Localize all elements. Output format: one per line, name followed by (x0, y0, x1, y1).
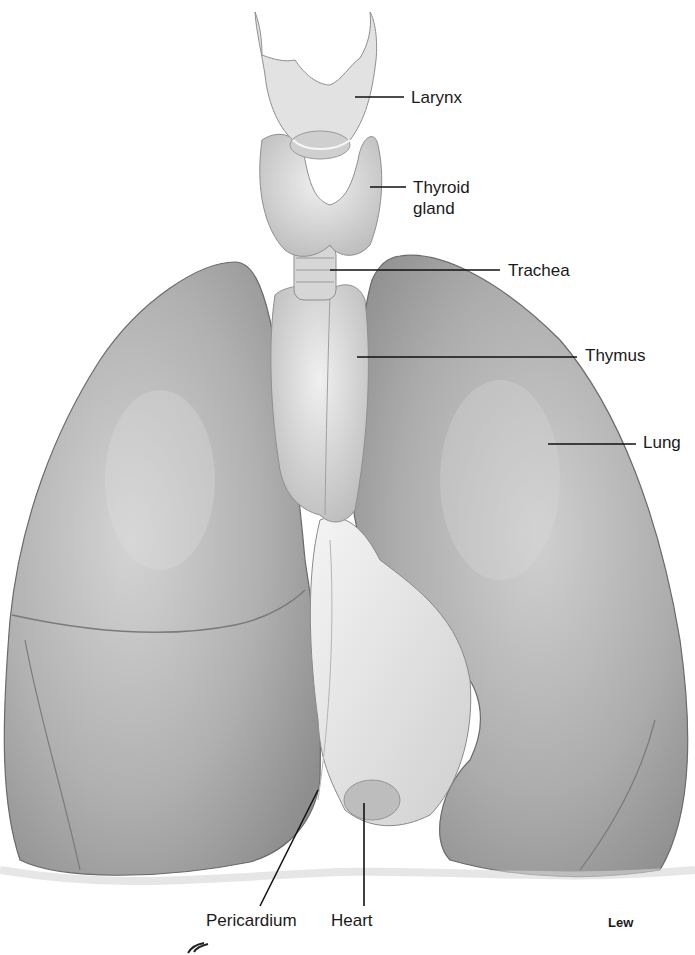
thymus (271, 285, 369, 522)
artist-credit: Lew (608, 915, 633, 930)
label-heart: Heart (331, 910, 373, 931)
label-thymus: Thymus (585, 345, 645, 366)
label-pericardium: Pericardium (206, 910, 297, 931)
label-thyroid: Thyroid gland (413, 177, 470, 219)
label-lung: Lung (643, 432, 681, 453)
label-larynx: Larynx (411, 87, 462, 108)
anatomy-illustration (0, 0, 695, 955)
label-trachea: Trachea (508, 260, 570, 281)
signature-mark-icon (186, 940, 216, 955)
